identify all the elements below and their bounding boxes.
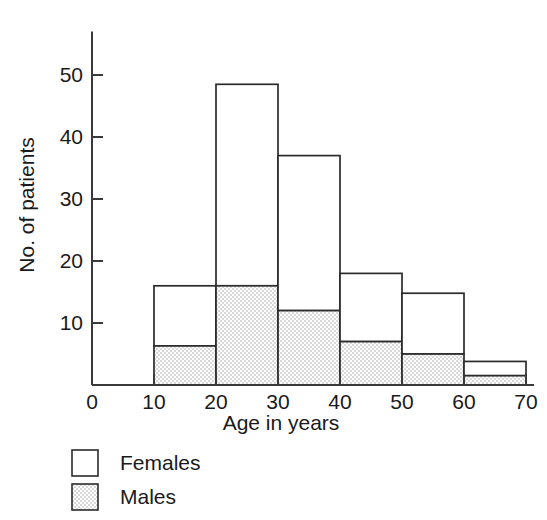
bar-segment-males xyxy=(340,342,402,385)
legend-label: Females xyxy=(120,451,201,474)
bar-segment-females xyxy=(464,361,526,375)
bar-group xyxy=(216,84,278,385)
y-tick-label: 40 xyxy=(60,125,83,148)
y-tick-label: 20 xyxy=(60,249,83,272)
bar-segment-females xyxy=(154,286,216,346)
bar-segment-males xyxy=(216,286,278,385)
legend-item: Males xyxy=(72,484,176,510)
x-tick-label: 50 xyxy=(390,390,413,413)
x-tick-label: 60 xyxy=(452,390,475,413)
x-tick-label: 20 xyxy=(204,390,227,413)
bar-group xyxy=(340,273,402,385)
chart-legend: FemalesMales xyxy=(72,450,201,510)
bar-segment-males xyxy=(464,376,526,385)
bar-segment-females xyxy=(278,156,340,311)
legend-swatch-males xyxy=(72,484,98,510)
bar-group xyxy=(402,293,464,385)
bar-group xyxy=(464,361,526,385)
x-tick-label: 10 xyxy=(142,390,165,413)
chart-figure: 1020304050010203040506070 No. of patient… xyxy=(0,0,547,520)
legend-swatch-females xyxy=(72,450,98,476)
x-tick-label: 30 xyxy=(266,390,289,413)
bar-segment-females xyxy=(340,273,402,341)
histogram-chart: 1020304050010203040506070 No. of patient… xyxy=(0,0,547,520)
y-tick-label: 50 xyxy=(60,63,83,86)
legend-label: Males xyxy=(120,485,176,508)
y-axis-label: No. of patients xyxy=(15,137,38,272)
bar-group xyxy=(154,286,216,385)
legend-item: Females xyxy=(72,450,201,476)
bar-segment-males xyxy=(154,346,216,385)
bar-segment-males xyxy=(278,311,340,385)
x-tick-label: 40 xyxy=(328,390,351,413)
bar-segment-males xyxy=(402,354,464,385)
x-axis-label: Age in years xyxy=(223,411,340,434)
y-tick-label: 30 xyxy=(60,187,83,210)
bar-segment-females xyxy=(216,84,278,285)
x-tick-label: 0 xyxy=(86,390,98,413)
y-tick-label: 10 xyxy=(60,311,83,334)
bar-segment-females xyxy=(402,293,464,354)
bars-layer xyxy=(154,84,526,385)
x-tick-label: 70 xyxy=(514,390,537,413)
bar-group xyxy=(278,156,340,385)
